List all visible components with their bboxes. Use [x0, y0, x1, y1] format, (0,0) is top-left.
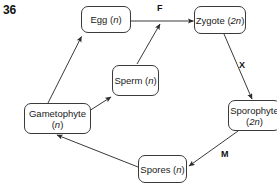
node-sporophyte[interactable]: Sporophyte(2n): [228, 100, 277, 131]
node-zygote-label: Zygote (2n): [196, 15, 245, 26]
node-sperm[interactable]: Sperm (n): [112, 65, 159, 96]
edge-spores-to-gametophyte: [57, 135, 138, 167]
node-gametophyte[interactable]: Gametophyte(n): [24, 103, 91, 134]
node-sporophyte-label: Sporophyte(2n): [230, 105, 277, 127]
edge-sperm-to-zygote: [137, 24, 160, 64]
edge-zygote-to-sporophyte: [224, 34, 252, 99]
node-egg-label: Egg (n): [90, 14, 121, 25]
node-sperm-label: Sperm (n): [114, 75, 156, 86]
edge-gametophyte-to-egg: [48, 37, 82, 104]
node-spores[interactable]: Spores (n): [138, 155, 187, 183]
edge-label-m: M: [221, 149, 229, 159]
node-zygote[interactable]: Zygote (2n): [194, 6, 246, 34]
diagram-page: 36 Egg (n) Zygote (2n) Sperm (n) Gametop…: [0, 0, 277, 183]
node-spores-label: Spores (n): [140, 164, 184, 175]
node-gametophyte-label: Gametophyte(n): [29, 108, 86, 130]
node-egg[interactable]: Egg (n): [81, 6, 131, 33]
edge-label-f: F: [157, 3, 163, 13]
edge-label-x: X: [239, 60, 245, 70]
edge-sporophyte-to-spores: [189, 131, 238, 166]
